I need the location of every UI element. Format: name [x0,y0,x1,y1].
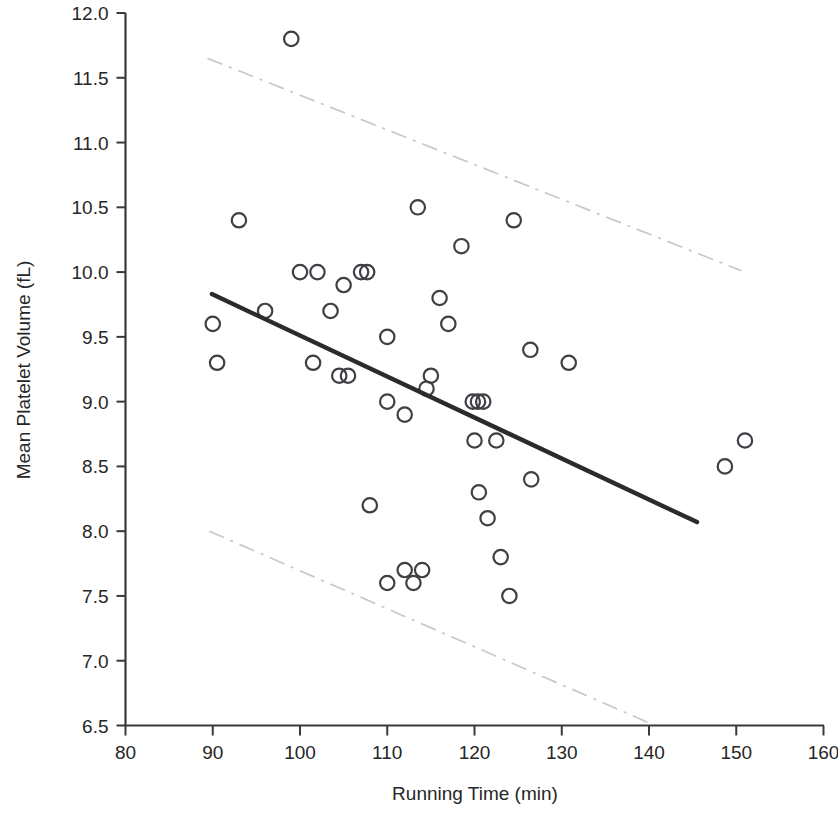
data-point [380,330,394,344]
y-tick-label: 7.0 [82,651,108,672]
data-point [293,265,307,279]
x-tick-label: 80 [115,742,136,763]
data-point [454,239,468,253]
data-point [323,304,337,318]
data-point [523,343,537,357]
x-tick-label: 160 [808,742,838,763]
y-tick-label: 11.5 [73,68,109,89]
data-point [310,265,324,279]
y-tick-label: 9.0 [82,392,108,413]
plot-canvas: 6.57.07.58.08.59.09.510.010.511.011.512.… [0,0,838,816]
y-tick-label: 12.0 [72,3,109,24]
x-tick-label: 150 [720,742,752,763]
x-tick-label: 130 [546,742,578,763]
y-tick-label: 10.0 [72,262,109,283]
y-tick-label: 8.0 [82,521,108,542]
x-tick-group: 8090100110120130140150160 [115,726,838,763]
upper-confidence-band [208,58,742,270]
y-tick-group: 6.57.07.58.08.59.09.510.010.511.011.512.… [72,3,126,737]
data-point [432,291,446,305]
data-point [206,317,220,331]
data-point [380,394,394,408]
data-point [507,213,521,227]
data-point [210,356,224,370]
data-point [424,369,438,383]
data-point [562,356,576,370]
data-point [284,32,298,46]
data-point [738,433,752,447]
y-tick-label: 6.5 [82,716,108,737]
data-point [398,563,412,577]
y-tick-label: 8.5 [82,456,108,477]
scatter-chart-figure: 6.57.07.58.08.59.09.510.010.511.011.512.… [0,0,838,816]
y-tick-label: 11.0 [73,133,109,154]
data-point [232,213,246,227]
x-tick-label: 90 [202,742,223,763]
data-point [336,278,350,292]
x-tick-label: 140 [633,742,665,763]
confidence-band-group [208,58,742,725]
y-tick-label: 9.5 [82,327,108,348]
data-point [406,576,420,590]
data-point [341,369,355,383]
x-axis: 8090100110120130140150160 [115,726,838,763]
y-axis: 6.57.07.58.08.59.09.510.010.511.011.512.… [72,3,126,737]
data-point [718,459,732,473]
data-point [415,563,429,577]
data-point [524,472,538,486]
lower-confidence-band [209,531,655,725]
data-point [411,200,425,214]
data-point [441,317,455,331]
data-point [489,433,503,447]
x-tick-label: 110 [372,742,402,763]
data-point-group [206,32,753,603]
data-point [472,485,486,499]
data-point [502,589,516,603]
x-tick-label: 120 [459,742,491,763]
y-tick-label: 10.5 [72,197,109,218]
data-point [306,356,320,370]
x-axis-title: Running Time (min) [392,783,558,804]
data-point [480,511,494,525]
data-point [380,576,394,590]
x-tick-label: 100 [284,742,316,763]
data-point [398,407,412,421]
y-tick-label: 7.5 [82,586,108,607]
data-point [467,433,481,447]
y-axis-title: Mean Platelet Volume (fL) [13,261,34,480]
data-point [363,498,377,512]
data-point [493,550,507,564]
